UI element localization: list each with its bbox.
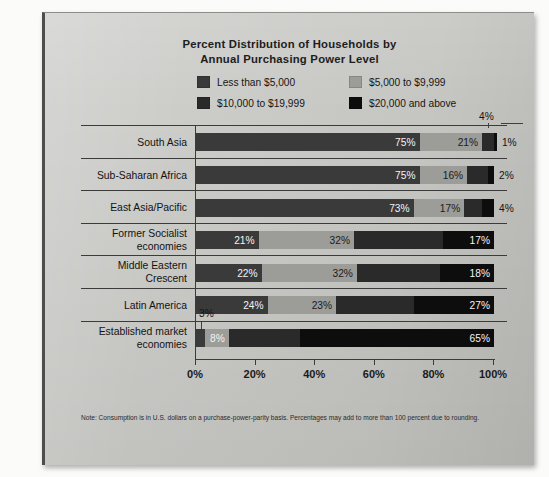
segment-value-label: 21% bbox=[458, 137, 478, 148]
bar-segment: 65% bbox=[300, 329, 494, 347]
x-axis-tick bbox=[374, 360, 375, 365]
plot-area: South Asia4%75%21%1%Sub-Saharan Africa75… bbox=[45, 13, 534, 465]
bar-segment: 8% bbox=[205, 329, 229, 347]
callout-leader-line bbox=[185, 321, 195, 322]
bar-segment: 17% bbox=[443, 231, 494, 249]
bar-segment bbox=[336, 296, 413, 314]
x-axis-tick-label: 100% bbox=[479, 368, 507, 380]
row-label-line-1: Sub-Saharan Africa bbox=[85, 169, 187, 182]
stacked-bar-6: 8%65% bbox=[196, 329, 494, 347]
row-label-1: Sub-Saharan Africa bbox=[85, 169, 187, 182]
row-label-line-2: Crescent bbox=[85, 272, 187, 285]
row-separator bbox=[81, 125, 507, 126]
bar-segment bbox=[229, 329, 301, 347]
segment-value-label: 17% bbox=[440, 202, 460, 213]
row-label-3: Former Socialisteconomies bbox=[85, 227, 187, 253]
bar-segment: 1% bbox=[494, 133, 497, 151]
row-separator bbox=[81, 158, 507, 159]
segment-value-label: 23% bbox=[312, 300, 332, 311]
x-axis-tick bbox=[493, 360, 494, 365]
bar-segment: 18% bbox=[440, 264, 494, 282]
bar-segment bbox=[357, 264, 440, 282]
x-axis-line bbox=[195, 359, 495, 360]
segment-value-label: 24% bbox=[243, 300, 263, 311]
x-axis-tick bbox=[195, 360, 196, 365]
segment-value-label: 21% bbox=[234, 235, 254, 246]
segment-value-label: 32% bbox=[330, 235, 350, 246]
bar-segment bbox=[196, 329, 205, 347]
segment-value-label: 18% bbox=[470, 267, 490, 278]
segment-value-label: 1% bbox=[502, 137, 517, 148]
row-separator bbox=[81, 255, 507, 256]
callout-leader-line bbox=[501, 123, 523, 124]
segment-callout-label: 3% bbox=[199, 308, 214, 319]
row-label-0: South Asia bbox=[85, 136, 187, 149]
row-separator bbox=[81, 288, 507, 289]
row-label-line-2: economies bbox=[85, 338, 187, 351]
stacked-bar-0: 75%21%1% bbox=[196, 133, 497, 151]
stacked-bar-5: 24%23%27% bbox=[196, 296, 494, 314]
stacked-bar-4: 22%32%18% bbox=[196, 264, 494, 282]
segment-value-label: 65% bbox=[470, 332, 490, 343]
row-separator bbox=[81, 321, 507, 322]
bar-segment: 32% bbox=[262, 264, 357, 282]
x-axis-tick bbox=[255, 360, 256, 365]
bar-segment: 2% bbox=[488, 166, 494, 184]
row-label-5: Latin America bbox=[85, 299, 187, 312]
row-label-6: Established marketeconomies bbox=[85, 325, 187, 351]
stacked-bar-2: 73%17%4% bbox=[196, 199, 494, 217]
segment-callout-label: 4% bbox=[479, 111, 494, 122]
screenshot-root: Percent Distribution of Households by An… bbox=[0, 0, 549, 477]
bar-segment: 16% bbox=[420, 166, 468, 184]
bar-segment: 17% bbox=[414, 199, 465, 217]
row-label-line-1: East Asia/Pacific bbox=[85, 201, 187, 214]
row-label-4: Middle EasternCrescent bbox=[85, 259, 187, 285]
row-label-2: East Asia/Pacific bbox=[85, 201, 187, 214]
segment-value-label: 32% bbox=[333, 267, 353, 278]
bar-segment: 27% bbox=[414, 296, 494, 314]
bar-segment: 75% bbox=[196, 133, 420, 151]
bar-segment: 21% bbox=[196, 231, 259, 249]
segment-value-label: 75% bbox=[395, 137, 415, 148]
x-axis-tick-label: 40% bbox=[303, 368, 325, 380]
bar-segment: 32% bbox=[259, 231, 354, 249]
bar-segment bbox=[464, 199, 482, 217]
segment-value-label: 8% bbox=[210, 332, 225, 343]
row-separator bbox=[81, 223, 507, 224]
segment-value-label: 73% bbox=[389, 202, 409, 213]
bar-segment bbox=[354, 231, 443, 249]
bar-segment: 4% bbox=[482, 199, 494, 217]
x-axis-tick-label: 80% bbox=[422, 368, 444, 380]
segment-value-label: 16% bbox=[443, 169, 463, 180]
bar-segment: 22% bbox=[196, 264, 262, 282]
x-axis-tick-label: 60% bbox=[363, 368, 385, 380]
row-label-line-1: Latin America bbox=[85, 299, 187, 312]
bar-segment: 73% bbox=[196, 199, 414, 217]
bar-segment: 23% bbox=[268, 296, 337, 314]
scanned-chart-card: Percent Distribution of Households by An… bbox=[42, 12, 534, 465]
segment-value-label: 22% bbox=[237, 267, 257, 278]
segment-value-label: 17% bbox=[470, 235, 490, 246]
bar-segment: 21% bbox=[420, 133, 483, 151]
x-axis-tick bbox=[314, 360, 315, 365]
row-label-line-1: Middle Eastern bbox=[85, 259, 187, 272]
row-label-line-2: economies bbox=[85, 240, 187, 253]
chart-footnote: Note: Consumption is in U.S. dollars on … bbox=[81, 413, 501, 422]
row-label-line-1: Established market bbox=[85, 325, 187, 338]
x-axis-tick bbox=[433, 360, 434, 365]
stacked-bar-1: 75%16%2% bbox=[196, 166, 494, 184]
bar-segment: 75% bbox=[196, 166, 420, 184]
stacked-bar-3: 21%32%17% bbox=[196, 231, 494, 249]
segment-value-label: 27% bbox=[470, 300, 490, 311]
row-separator bbox=[81, 190, 507, 191]
segment-value-label: 4% bbox=[499, 202, 514, 213]
chart-container: Percent Distribution of Households by An… bbox=[45, 13, 534, 465]
row-label-line-1: Former Socialist bbox=[85, 227, 187, 240]
segment-value-label: 2% bbox=[499, 169, 514, 180]
bar-segment bbox=[482, 133, 494, 151]
x-axis-tick-label: 0% bbox=[187, 368, 203, 380]
callout-leader-tick bbox=[488, 123, 489, 128]
x-axis-tick-label: 20% bbox=[244, 368, 266, 380]
bar-segment bbox=[467, 166, 488, 184]
row-label-line-1: South Asia bbox=[85, 136, 187, 149]
